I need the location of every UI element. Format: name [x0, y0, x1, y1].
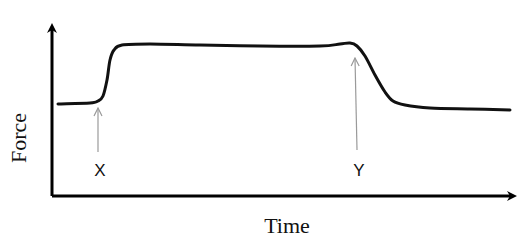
marker-y-label: Y [353, 161, 364, 180]
marker-y-arrow [355, 58, 357, 150]
marker-x-label: X [94, 161, 105, 180]
y-axis-label: Force [6, 113, 31, 163]
x-axis-label: Time [264, 213, 310, 238]
force-time-diagram: X Y Time Force [0, 0, 524, 247]
force-curve [58, 43, 510, 110]
